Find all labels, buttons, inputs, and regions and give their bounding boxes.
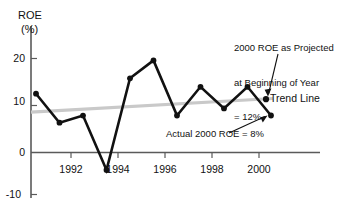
y-tick-label-neg10: -10 [0, 188, 21, 200]
roe-line-chart: ROE (%) 20 10 0 -10 1992 1994 1996 1998 … [0, 0, 347, 208]
y-axis-units: (%) [21, 23, 38, 35]
actual-roe-annotation: Actual 2000 ROE = 8% [166, 128, 264, 139]
x-tick-label-1998: 1998 [195, 163, 229, 175]
x-tick-label-1992: 1992 [54, 163, 88, 175]
x-tick-label-1996: 1996 [148, 163, 182, 175]
trend-line-label: Trend Line [270, 92, 320, 104]
projected-roe-annotation-line2: at Beginning of Year [234, 77, 334, 89]
y-tick-label-10: 10 [3, 95, 25, 107]
projected-roe-annotation: 2000 ROE as Projected at Beginning of Ye… [234, 19, 334, 146]
x-tick-label-2000: 2000 [242, 163, 276, 175]
projected-roe-annotation-line1: 2000 ROE as Projected [234, 42, 334, 54]
x-tick-label-1994: 1994 [101, 163, 135, 175]
y-tick-label-0: 0 [3, 146, 25, 158]
y-tick-label-20: 20 [3, 52, 25, 64]
y-tick-marks [31, 59, 37, 195]
y-axis-title: ROE [18, 9, 42, 21]
projected-roe-annotation-line3: = 12% [234, 111, 334, 123]
